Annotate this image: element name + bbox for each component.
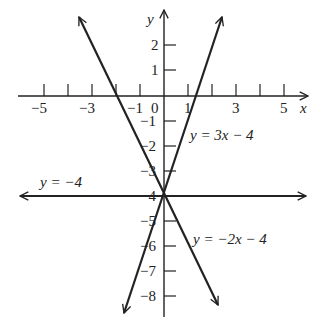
label-line-minus-4: y = −4 [38,174,82,190]
x-tick-label: −5 [31,100,47,116]
line-y-3x-minus-4 [124,17,222,313]
y-tick-label: 2 [151,37,159,53]
y-axis-label: y [145,11,154,27]
label-line-3x-minus-4: y = 3x − 4 [188,127,254,143]
x-tick-label: −3 [79,100,95,116]
line-y-minus-2x-minus-4 [79,17,218,305]
graph: −5 −3 −1 0 1 3 5 x y 2 1 −1 −2 −3 −4 −5 … [0,0,320,317]
y-tick-label: −8 [140,288,156,304]
x-tick-label: 3 [232,100,240,116]
y-ticks [164,45,176,296]
x-axis-label: x [299,100,307,116]
label-line-minus-2x-minus-4: y = −2x − 4 [191,231,267,247]
y-tick-label: −7 [140,263,156,279]
y-tick-label: −1 [140,113,156,129]
x-tick-label: 5 [280,100,288,116]
y-tick-label: 1 [151,62,159,78]
